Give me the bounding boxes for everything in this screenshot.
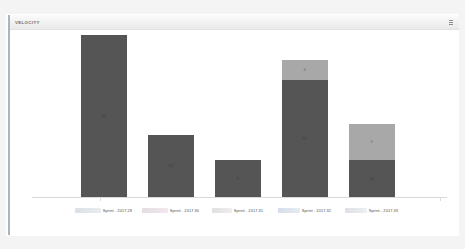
bar-column[interactable]: 8 xyxy=(215,160,261,197)
x-axis-label[interactable]: Sprint - 2017.30 xyxy=(137,204,204,216)
redacted-project-chip xyxy=(75,208,101,213)
x-axis-label[interactable]: Sprint - 2017.31 xyxy=(204,204,271,216)
bar-slot: 9 10 xyxy=(338,29,405,197)
bar-segment-completed[interactable]: 10 xyxy=(349,160,395,197)
x-axis-label-text: Sprint - 2017.33 xyxy=(369,208,398,213)
axis-tick-right xyxy=(440,197,441,201)
bar-segment-value: 10 xyxy=(369,177,373,181)
bar-column[interactable]: 13 xyxy=(148,135,194,197)
x-axis-label[interactable]: Sprint - 2017.33 xyxy=(338,204,405,216)
kebab-menu-dots xyxy=(449,22,453,23)
bar-segment-value: 9 xyxy=(370,140,372,144)
bar-series: 34 13 xyxy=(12,29,453,197)
bar-segment-completed[interactable]: 8 xyxy=(215,160,261,197)
bar-segment-completed[interactable]: 13 xyxy=(148,135,194,197)
bar-column[interactable]: 9 10 xyxy=(349,124,395,197)
bar-segment-value: 29 xyxy=(302,137,306,141)
bar-segment-value: 8 xyxy=(236,177,238,181)
x-axis-label-text: Sprint - 2017.32 xyxy=(302,208,331,213)
bar-segment-completed[interactable]: 34 xyxy=(81,35,127,197)
redacted-project-chip xyxy=(345,208,367,213)
bar-slot: 13 xyxy=(137,29,204,197)
axis-tick-left xyxy=(100,197,101,201)
bar-segment-value: 34 xyxy=(101,114,105,118)
bar-segment-remaining[interactable]: 9 xyxy=(349,124,395,160)
left-accent-rail xyxy=(8,15,10,235)
x-axis-label-text: Sprint - 2017.30 xyxy=(170,208,199,213)
bar-slot: 4 29 xyxy=(271,29,338,197)
x-axis-label-text: Sprint - 2017.29 xyxy=(103,208,132,213)
bar-segment-value: 4 xyxy=(303,68,305,72)
x-axis-baseline xyxy=(32,197,447,198)
x-axis-label[interactable]: Sprint - 2017.29 xyxy=(70,204,137,216)
chart-plot-area: 34 13 xyxy=(12,34,453,224)
x-axis-label[interactable]: Sprint - 2017.32 xyxy=(271,204,338,216)
bar-slot: 34 xyxy=(70,29,137,197)
kebab-menu-icon[interactable] xyxy=(446,18,455,27)
bar-slot: 8 xyxy=(204,29,271,197)
bar-segment-completed[interactable]: 29 xyxy=(282,80,328,197)
bar-segment-remaining[interactable]: 4 xyxy=(282,60,328,80)
bar-segment-value: 13 xyxy=(168,164,172,168)
page-title: VELOCITY xyxy=(10,20,40,25)
redacted-project-chip xyxy=(142,208,168,213)
velocity-widget-screen: VELOCITY 34 xyxy=(0,0,465,249)
bar-column[interactable]: 4 29 xyxy=(282,60,328,197)
widget-header: VELOCITY xyxy=(10,15,459,30)
bar-column[interactable]: 34 xyxy=(81,35,127,197)
redacted-project-chip xyxy=(278,208,300,213)
x-axis-label-text: Sprint - 2017.31 xyxy=(234,208,263,213)
x-axis-labels: Sprint - 2017.29 Sprint - 2017.30 Sprint… xyxy=(12,204,453,216)
redacted-project-chip xyxy=(212,208,232,213)
